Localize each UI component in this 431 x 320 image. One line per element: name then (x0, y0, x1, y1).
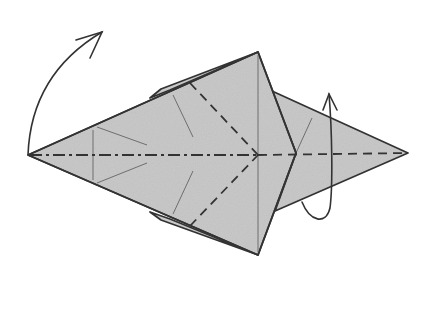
diagram-canvas (0, 0, 431, 320)
origami-diagram (0, 0, 431, 320)
